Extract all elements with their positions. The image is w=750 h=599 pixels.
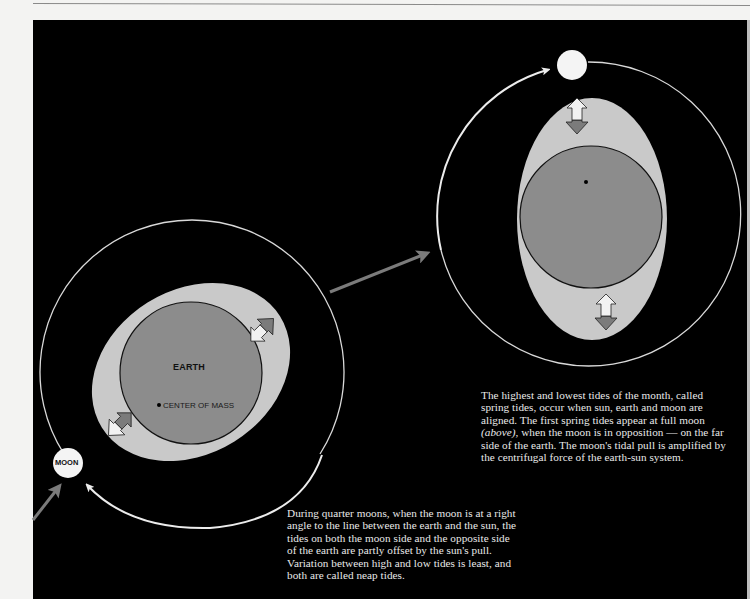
center-of-mass-dot xyxy=(157,403,161,407)
spring-tides-caption: The highest and lowest tides of the mont… xyxy=(481,389,731,463)
spring-caption-part2: , when the moon is in opposition — on th… xyxy=(481,426,726,463)
gray-direction-arrow xyxy=(33,488,58,520)
earth-label: EARTH xyxy=(173,362,205,372)
full-moon-system xyxy=(437,50,741,366)
moon-label: MOON xyxy=(55,458,78,467)
earth-circle xyxy=(520,146,662,288)
moon-circle xyxy=(557,50,587,80)
quarter-moon-system xyxy=(33,220,344,528)
gray-direction-arrow xyxy=(330,254,425,292)
earth-circle xyxy=(120,302,262,444)
spring-caption-part1: The highest and lowest tides of the mont… xyxy=(481,389,705,426)
center-of-mass-label: CENTER OF MASS xyxy=(157,401,234,410)
center-of-mass-dot xyxy=(584,180,588,184)
spring-caption-italic: (above) xyxy=(481,426,516,438)
center-of-mass-text: CENTER OF MASS xyxy=(163,401,234,410)
neap-tides-caption: During quarter moons, when the moon is a… xyxy=(287,507,517,581)
